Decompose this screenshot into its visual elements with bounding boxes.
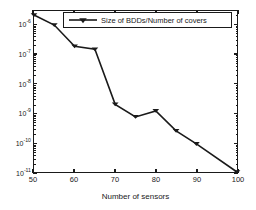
y-axis-minor-tick bbox=[236, 129, 239, 130]
y-axis-minor-tick bbox=[33, 59, 36, 60]
x-axis-tick-label: 80 bbox=[152, 175, 160, 184]
y-axis-minor-tick bbox=[33, 120, 36, 121]
y-axis-minor-tick bbox=[33, 87, 36, 88]
x-axis-tick-label: 70 bbox=[111, 175, 119, 184]
y-axis-minor-tick bbox=[236, 120, 239, 121]
y-axis-minor-tick bbox=[33, 27, 36, 28]
y-axis-minor-tick bbox=[236, 115, 239, 116]
y-axis-minor-tick bbox=[33, 36, 36, 37]
y-axis-minor-tick bbox=[33, 57, 36, 58]
y-axis-minor-tick bbox=[236, 55, 239, 56]
y-axis-minor-tick bbox=[236, 26, 239, 27]
y-axis-minor-tick bbox=[236, 93, 239, 94]
y-axis-minor-tick bbox=[236, 66, 239, 67]
y-axis-minor-tick bbox=[33, 66, 36, 67]
legend-line-marker-icon bbox=[68, 13, 98, 27]
y-axis-minor-tick bbox=[33, 63, 36, 64]
y-axis-minor-tick bbox=[33, 148, 36, 149]
y-axis-minor-tick bbox=[33, 105, 36, 106]
y-axis-minor-tick bbox=[236, 87, 239, 88]
y-axis-tick-label: 10-6 bbox=[19, 21, 31, 28]
y-axis-minor-tick bbox=[236, 145, 239, 146]
x-axis-tick-label: 90 bbox=[193, 175, 201, 184]
y-axis-minor-tick bbox=[33, 125, 36, 126]
y-axis-minor-tick bbox=[33, 75, 36, 76]
y-axis-minor-tick bbox=[33, 55, 36, 56]
x-axis-major-tick bbox=[196, 169, 197, 173]
y-axis-minor-tick bbox=[236, 125, 239, 126]
y-axis-minor-tick bbox=[236, 40, 239, 41]
y-axis-minor-tick bbox=[33, 70, 36, 71]
y-axis-minor-tick bbox=[33, 61, 36, 62]
y-axis-tick-labels: 10-610-710-810-910-1010-11 bbox=[0, 0, 31, 210]
y-axis-minor-tick bbox=[33, 116, 36, 117]
y-axis-minor-tick bbox=[33, 88, 36, 89]
x-axis-major-tick-top bbox=[32, 10, 33, 14]
y-axis-minor-tick bbox=[236, 75, 239, 76]
y-axis-minor-tick bbox=[33, 96, 36, 97]
y-axis-tick-label: 10-7 bbox=[19, 50, 31, 57]
series-line bbox=[34, 15, 237, 172]
y-axis-minor-tick bbox=[236, 36, 239, 37]
x-axis-major-tick bbox=[155, 169, 156, 173]
y-axis-minor-tick bbox=[236, 146, 239, 147]
x-axis-tick-label: 60 bbox=[70, 175, 78, 184]
legend-entry-label: Size of BDDs/Number of covers bbox=[101, 16, 207, 25]
series-markers bbox=[31, 13, 241, 174]
chart-legend: Size of BDDs/Number of covers bbox=[63, 12, 232, 28]
x-axis-major-tick bbox=[114, 169, 115, 173]
x-axis-tick-label: 50 bbox=[29, 175, 37, 184]
y-axis-minor-tick bbox=[236, 150, 239, 151]
y-axis-minor-tick bbox=[236, 33, 239, 34]
y-axis-minor-tick bbox=[236, 164, 239, 165]
y-axis-major-tick bbox=[33, 173, 37, 174]
y-axis-minor-tick bbox=[33, 118, 36, 119]
y-axis-minor-tick bbox=[33, 145, 36, 146]
y-axis-minor-tick bbox=[236, 15, 239, 16]
y-axis-minor-tick bbox=[236, 27, 239, 28]
y-axis-minor-tick bbox=[236, 99, 239, 100]
y-axis-minor-tick bbox=[33, 93, 36, 94]
y-axis-minor-tick bbox=[236, 148, 239, 149]
data-series-svg bbox=[34, 11, 237, 172]
x-axis-major-tick bbox=[73, 169, 74, 173]
y-axis-minor-tick bbox=[33, 90, 36, 91]
y-axis-minor-tick bbox=[33, 45, 36, 46]
y-axis-minor-tick bbox=[236, 70, 239, 71]
y-axis-minor-tick bbox=[236, 45, 239, 46]
y-axis-minor-tick bbox=[33, 99, 36, 100]
x-axis-major-tick bbox=[237, 169, 238, 173]
y-axis-minor-tick bbox=[236, 29, 239, 30]
y-axis-minor-tick bbox=[236, 88, 239, 89]
x-axis-title: Number of sensors bbox=[33, 192, 238, 201]
y-axis-minor-tick bbox=[236, 122, 239, 123]
y-axis-minor-tick bbox=[33, 115, 36, 116]
y-axis-minor-tick bbox=[236, 61, 239, 62]
y-axis-minor-tick bbox=[33, 164, 36, 165]
plot-area bbox=[33, 10, 238, 173]
y-axis-minor-tick bbox=[236, 105, 239, 106]
y-axis-minor-tick bbox=[33, 155, 36, 156]
y-axis-minor-tick bbox=[236, 63, 239, 64]
y-axis-minor-tick bbox=[33, 33, 36, 34]
y-axis-minor-tick bbox=[33, 26, 36, 27]
y-axis-tick-label: 10-9 bbox=[19, 110, 31, 117]
y-axis-minor-tick bbox=[33, 159, 36, 160]
x-axis-tick-label: 100 bbox=[232, 175, 245, 184]
y-axis-tick-label: 10-10 bbox=[16, 140, 31, 147]
y-axis-minor-tick bbox=[236, 31, 239, 32]
y-axis-minor-tick bbox=[33, 122, 36, 123]
chart-figure: 10-610-710-810-910-1010-11 5060708090100… bbox=[0, 0, 256, 210]
y-axis-minor-tick bbox=[33, 150, 36, 151]
y-axis-minor-tick bbox=[236, 96, 239, 97]
y-axis-minor-tick bbox=[236, 155, 239, 156]
y-axis-minor-tick bbox=[236, 85, 239, 86]
y-axis-minor-tick bbox=[33, 15, 36, 16]
y-axis-minor-tick bbox=[236, 90, 239, 91]
y-axis-minor-tick bbox=[236, 59, 239, 60]
y-axis-minor-tick bbox=[236, 152, 239, 153]
x-axis-major-tick bbox=[32, 169, 33, 173]
y-axis-tick-label: 10-8 bbox=[19, 80, 31, 87]
y-axis-minor-tick bbox=[33, 152, 36, 153]
x-axis-major-tick-top bbox=[237, 10, 238, 14]
